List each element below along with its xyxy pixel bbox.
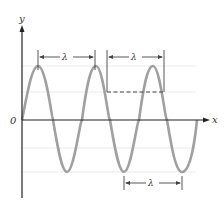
wavelength-label-1: λ xyxy=(61,52,68,62)
x-axis-label: x xyxy=(212,114,218,125)
y-axis-label: y xyxy=(18,13,25,24)
origin-label: 0 xyxy=(10,115,17,126)
wave-diagram: y x 0 λ λ λ xyxy=(0,0,224,209)
wavelength-label-3: λ xyxy=(147,178,154,188)
wavelength-label-2: λ xyxy=(130,52,137,62)
sine-wave xyxy=(22,66,197,172)
y-axis-arrow-icon xyxy=(20,25,25,32)
x-axis-arrow-icon xyxy=(203,118,210,123)
axes xyxy=(22,30,206,198)
